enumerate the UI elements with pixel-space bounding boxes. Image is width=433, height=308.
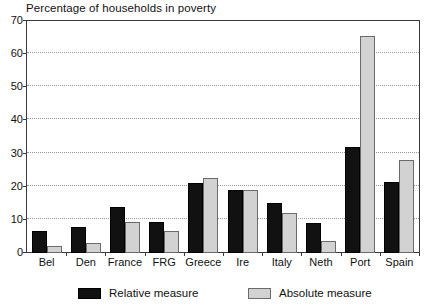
chart-legend: Relative measureAbsolute measure <box>0 286 433 306</box>
bar-greece-absolute <box>203 178 218 253</box>
bar-bel-absolute <box>47 246 62 253</box>
x-axis-tick-label: Neth <box>301 256 340 269</box>
bar-group <box>145 21 184 253</box>
bar-ire-relative <box>228 190 243 253</box>
bar-group <box>223 21 262 253</box>
bar-group <box>380 21 419 253</box>
legend-label: Relative measure <box>109 287 198 300</box>
bar-france-absolute <box>125 222 140 253</box>
bar-france-relative <box>110 207 125 253</box>
bar-den-absolute <box>86 243 101 253</box>
x-axis-tick-label: France <box>105 256 144 269</box>
bar-ire-absolute <box>243 190 258 253</box>
bar-group <box>341 21 380 253</box>
x-axis-tick-label: Spain <box>380 256 419 269</box>
x-axis-tick-label: Port <box>341 256 380 269</box>
y-axis-tick-label: 30 <box>1 148 23 159</box>
bar-frg-absolute <box>164 231 179 253</box>
y-axis-tick-label: 10 <box>1 214 23 225</box>
legend-label: Absolute measure <box>279 287 372 300</box>
legend-swatch-relative <box>78 288 101 299</box>
bar-group <box>66 21 105 253</box>
y-axis-tick-label: 40 <box>1 114 23 125</box>
x-axis-tick-label: Bel <box>27 256 66 269</box>
bar-spain-absolute <box>399 160 414 253</box>
x-axis-tick-label: Ire <box>223 256 262 269</box>
y-axis-tick-label: 70 <box>1 15 23 26</box>
x-axis: BelDenFranceFRGGreeceIreItalyNethPortSpa… <box>27 256 419 272</box>
bar-port-relative <box>345 147 360 253</box>
chart-title: Percentage of households in poverty <box>26 1 216 15</box>
x-axis-tick-label: Den <box>66 256 105 269</box>
bar-frg-relative <box>149 222 164 253</box>
x-axis-tick-mark <box>419 253 420 256</box>
legend-entry: Absolute measure <box>248 286 372 300</box>
bar-neth-absolute <box>321 241 336 253</box>
x-axis-tick-label: FRG <box>145 256 184 269</box>
x-axis-tick-label: Greece <box>184 256 223 269</box>
bar-italy-relative <box>267 203 282 253</box>
bar-port-absolute <box>360 36 375 253</box>
bar-neth-relative <box>306 223 321 253</box>
bar-bel-relative <box>32 231 47 253</box>
bar-spain-relative <box>384 182 399 253</box>
y-axis-tick-label: 0 <box>1 247 23 258</box>
bar-greece-relative <box>188 183 203 253</box>
x-axis-tick-label: Italy <box>262 256 301 269</box>
bar-group <box>262 21 301 253</box>
legend-swatch-absolute <box>248 288 271 299</box>
bar-den-relative <box>71 227 86 254</box>
bar-group <box>105 21 144 253</box>
bar-italy-absolute <box>282 213 297 253</box>
legend-entry: Relative measure <box>78 286 198 300</box>
y-axis-tick-label: 20 <box>1 181 23 192</box>
y-axis: 010203040506070 <box>0 20 23 253</box>
y-axis-tick-label: 60 <box>1 48 23 59</box>
bars-layer <box>27 21 419 253</box>
bar-group <box>27 21 66 253</box>
bar-group <box>301 21 340 253</box>
y-axis-tick-label: 50 <box>1 81 23 92</box>
bar-group <box>184 21 223 253</box>
